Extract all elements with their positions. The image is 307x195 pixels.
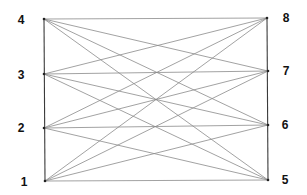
- edge-4-8: [44, 18, 267, 19]
- graph-canvas: [0, 0, 307, 195]
- edge-4-5: [44, 19, 268, 180]
- node-4: [43, 18, 46, 21]
- edge-4-7: [44, 19, 268, 71]
- node-label-4: 4: [18, 14, 25, 26]
- node-6: [267, 124, 270, 127]
- node-label-7: 7: [283, 65, 290, 77]
- node-label-5: 5: [282, 174, 289, 186]
- node-label-1: 1: [21, 176, 28, 188]
- node-label-6: 6: [282, 119, 289, 131]
- edge-4-6: [44, 19, 268, 125]
- edge-2-6: [44, 125, 268, 128]
- edge-3-5: [44, 74, 268, 180]
- node-1: [44, 180, 47, 183]
- node-label-2: 2: [18, 122, 25, 134]
- graph-edges: [44, 18, 268, 181]
- frame-edge-1-4: [44, 19, 45, 181]
- node-8: [266, 17, 269, 20]
- node-7: [267, 70, 270, 73]
- node-2: [43, 127, 46, 130]
- frame-edge-5-8: [267, 18, 268, 180]
- node-5: [267, 179, 270, 182]
- node-3: [43, 73, 46, 76]
- edge-1-5: [45, 180, 268, 181]
- edge-2-5: [44, 128, 268, 180]
- bipartite-graph-diagram: 1 2 3 4 5 6 7 8: [0, 0, 307, 195]
- node-label-8: 8: [283, 12, 290, 24]
- node-label-3: 3: [18, 69, 25, 81]
- edge-3-7: [44, 71, 268, 74]
